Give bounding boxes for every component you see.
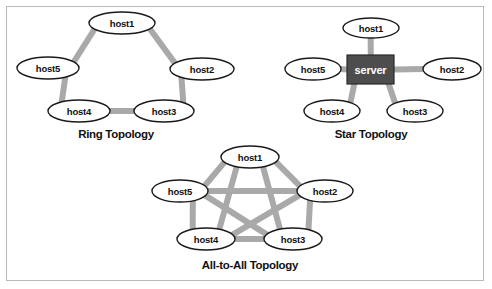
topology-link [263,166,280,229]
topology-link [181,77,183,103]
all-to-all-topology-diagram: host1host2host3host4host5 All-to-All Top… [152,146,353,271]
topology-link [204,162,225,187]
host-node-host5[interactable]: host5 [17,57,79,79]
host-node-host3[interactable]: host3 [387,100,443,122]
all-to-all-topology-caption: All-to-All Topology [202,259,299,271]
host-node-host2[interactable]: host2 [170,58,234,80]
topology-link [73,28,95,62]
host-node-label: host4 [194,234,219,245]
star-topology-caption: Star Topology [335,128,408,140]
host-node-host4[interactable]: host4 [48,100,110,122]
host-node-host2[interactable]: host2 [297,180,353,202]
topology-link [308,200,310,230]
host-node-host1[interactable]: host1 [89,12,155,34]
ring-topology-caption: Ring Topology [78,128,155,140]
host-node-label: host5 [168,186,193,197]
topology-link [275,161,300,186]
host-node-host5[interactable]: host5 [285,58,341,80]
diagram-canvas: host1host2host3host4host5 Ring Topology … [0,0,492,289]
host-node-label: host3 [403,106,427,117]
host-node-label: host1 [110,18,135,29]
topology-link [149,28,175,63]
host-node-label: host2 [440,64,464,75]
host-node-host2[interactable]: host2 [423,58,481,80]
star-topology-diagram: server host1host2host3host4host5 Star To… [285,18,481,140]
host-node-host5[interactable]: host5 [152,180,208,202]
host-node-host3[interactable]: host3 [264,228,322,250]
host-node-host1[interactable]: host1 [343,18,399,38]
topology-link [62,77,66,103]
host-node-host4[interactable]: host4 [177,228,235,250]
host-node-host3[interactable]: host3 [134,100,194,122]
ring-nodes: host1host2host3host4host5 [17,12,234,122]
topology-figure: host1host2host3host4host5 Ring Topology … [0,0,492,289]
host-node-host1[interactable]: host1 [221,146,279,168]
server-node-label: server [355,64,388,76]
all-to-all-nodes: host1host2host3host4host5 [152,146,353,250]
host-node-label: host1 [359,23,384,34]
host-node-label: host5 [301,64,326,75]
host-node-label: host5 [36,63,61,74]
host-node-label: host4 [67,106,92,117]
ring-edges [62,28,184,111]
host-node-label: host1 [238,152,263,163]
host-node-label: host3 [281,234,305,245]
ring-topology-diagram: host1host2host3host4host5 Ring Topology [17,12,234,140]
host-node-label: host4 [320,106,345,117]
host-node-host4[interactable]: host4 [304,100,360,122]
topology-link [219,166,237,229]
host-node-label: host3 [152,106,176,117]
host-node-label: host2 [313,186,337,197]
star-server-node[interactable]: server [347,55,394,84]
host-node-label: host2 [190,64,214,75]
